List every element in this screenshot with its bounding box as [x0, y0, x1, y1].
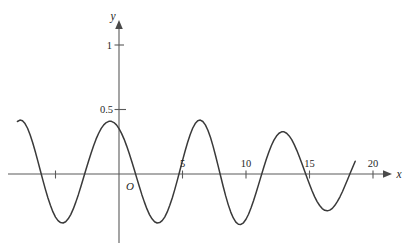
x-axis-label: x — [395, 168, 402, 180]
x-tick-label-20: 20 — [368, 158, 379, 169]
x-tick-label-10: 10 — [241, 158, 252, 169]
x-tick-label-15: 15 — [304, 158, 315, 169]
y-tick-label-1: 1 — [107, 40, 112, 51]
label-layer: y x O 1 0.5 5 10 15 20 — [0, 0, 420, 250]
x-tick-label-5: 5 — [180, 158, 185, 169]
y-tick-label-0.5: 0.5 — [100, 104, 113, 115]
origin-label: O — [126, 180, 134, 192]
y-axis-label: y — [109, 10, 116, 23]
sinc-function-figure: y x O 1 0.5 5 10 15 20 — [0, 0, 420, 250]
